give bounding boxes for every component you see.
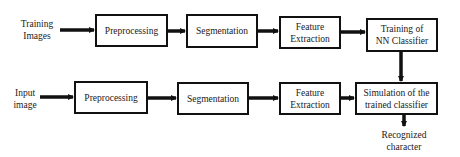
label-line: Images: [14, 31, 60, 43]
box-text: Training of: [376, 23, 429, 35]
train-feature-extraction-box: Feature Extraction: [279, 16, 341, 49]
label-line: character: [376, 142, 432, 154]
box-text: Segmentation: [187, 93, 239, 105]
label-line: image: [10, 100, 40, 112]
box-text: Feature: [290, 87, 330, 99]
input-image-label: Input image: [10, 88, 40, 111]
train-segmentation-box: Segmentation: [186, 14, 258, 48]
training-images-label: Training Images: [14, 19, 60, 42]
box-text: Feature: [290, 21, 330, 33]
test-segmentation-box: Segmentation: [177, 82, 249, 115]
test-preprocessing-box: Preprocessing: [74, 81, 148, 114]
train-nn-classifier-box: Training of NN Classifier: [366, 18, 438, 52]
label-line: Input: [10, 88, 40, 100]
box-text: Extraction: [290, 33, 330, 45]
label-line: Recognized: [376, 130, 432, 142]
box-text: Segmentation: [196, 25, 248, 37]
test-feature-extraction-box: Feature Extraction: [279, 82, 341, 115]
box-text: Preprocessing: [105, 25, 158, 37]
train-preprocessing-box: Preprocessing: [95, 14, 168, 47]
label-line: Training: [14, 19, 60, 31]
box-text: Extraction: [290, 99, 330, 111]
box-text: NN Classifier: [376, 35, 429, 47]
test-simulation-box: Simulation of the trained classifier: [355, 82, 438, 115]
recognized-character-label: Recognized character: [376, 130, 432, 153]
box-text: Simulation of the: [364, 87, 430, 99]
box-text: trained classifier: [364, 99, 430, 111]
box-text: Preprocessing: [84, 92, 137, 104]
